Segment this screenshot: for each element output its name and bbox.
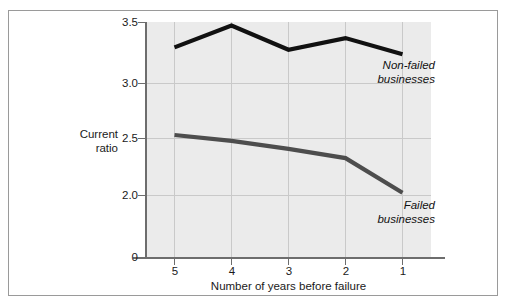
annotation-non-failed-businesses: Non-failed businesses [377, 58, 435, 87]
annotation-failed-businesses: Failed businesses [377, 198, 435, 227]
annotation-failed-line-2: businesses [377, 212, 435, 226]
line-series-non-failed [175, 26, 403, 55]
chart-current-ratio: 3.5 3.0 2.5 2.0 0 Current ratio 5 4 3 2 … [0, 0, 507, 299]
series-lines [0, 0, 507, 299]
annotation-non-failed-line-1: Non-failed [377, 58, 435, 72]
caption-fragment [30, 292, 480, 299]
annotation-failed-line-1: Failed [377, 198, 435, 212]
line-series-failed [175, 135, 403, 193]
annotation-non-failed-line-2: businesses [377, 72, 435, 86]
